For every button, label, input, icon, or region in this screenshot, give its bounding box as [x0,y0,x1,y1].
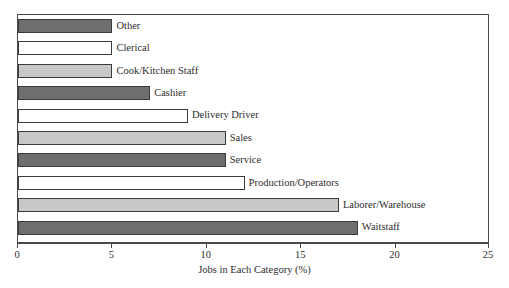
bar-label: Sales [230,133,252,144]
bar-row: Delivery Driver [18,109,259,123]
x-axis-tick [111,243,112,248]
bar [18,153,226,167]
x-axis-line [17,243,489,244]
x-axis-tick [488,243,489,248]
bar-row: Laborer/Warehouse [18,198,425,212]
x-axis-tick-label: 0 [14,250,19,261]
bar [18,176,245,190]
bar-row: Clerical [18,41,150,55]
bar-label: Cashier [154,88,186,99]
bar-chart: OtherClericalCook/Kitchen StaffCashierDe… [0,0,509,288]
bar-row: Service [18,153,261,167]
bar-row: Other [18,19,140,33]
x-axis-tick [395,243,396,248]
bar [18,86,150,100]
x-axis-tick-label: 10 [201,250,212,261]
bar [18,131,226,145]
x-axis-title: Jobs in Each Category (%) [0,265,509,276]
bar-label: Production/Operators [249,178,339,189]
x-axis: 0510152025 [17,243,489,244]
plot-area: OtherClericalCook/Kitchen StaffCashierDe… [17,14,489,243]
bar [18,221,358,235]
x-axis-tick [206,243,207,248]
x-axis-tick [300,243,301,248]
x-axis-tick-label: 15 [295,250,306,261]
bar-label: Cook/Kitchen Staff [116,66,198,77]
bar-label: Clerical [116,43,149,54]
bar-row: Production/Operators [18,176,339,190]
bar [18,19,112,33]
x-axis-tick-label: 25 [483,250,494,261]
bar-label: Waitstaff [362,222,400,233]
x-axis-tick-label: 5 [109,250,114,261]
bar-row: Cashier [18,86,186,100]
bar [18,198,339,212]
bar [18,109,188,123]
bar-label: Laborer/Warehouse [343,200,426,211]
bar [18,64,112,78]
bar-label: Other [116,21,140,32]
bar-row: Sales [18,131,252,145]
bar-row: Cook/Kitchen Staff [18,64,198,78]
bar-label: Delivery Driver [192,110,259,121]
bar [18,41,112,55]
bar-row: Waitstaff [18,221,400,235]
bar-label: Service [230,155,262,166]
x-axis-tick-label: 20 [389,250,400,261]
x-axis-tick [17,243,18,248]
